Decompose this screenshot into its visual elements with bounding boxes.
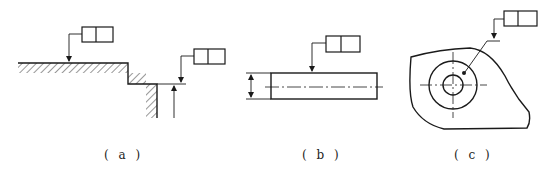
- plate-outline: [410, 48, 530, 129]
- leader-line-3: [312, 43, 326, 71]
- leader-line-2: [181, 56, 194, 82]
- panel-a: [18, 27, 225, 118]
- shaft-body: [271, 73, 377, 99]
- caption-b: ( b ): [302, 148, 342, 162]
- panel-c: [410, 11, 537, 129]
- tolerance-frame-1: [82, 27, 113, 42]
- tolerance-drawing: [0, 0, 555, 172]
- tolerance-frame-2: [194, 49, 225, 64]
- tolerance-frame-3: [326, 36, 360, 52]
- caption-c: ( c ): [454, 148, 493, 162]
- tolerance-frame-4: [504, 11, 537, 26]
- panel-b: [246, 36, 383, 99]
- leader-line-1: [69, 34, 82, 61]
- caption-a: ( a ): [104, 148, 143, 162]
- hatched-step-part: [18, 63, 157, 118]
- leader-dot: [462, 71, 466, 75]
- leader-line-4: [494, 19, 504, 38]
